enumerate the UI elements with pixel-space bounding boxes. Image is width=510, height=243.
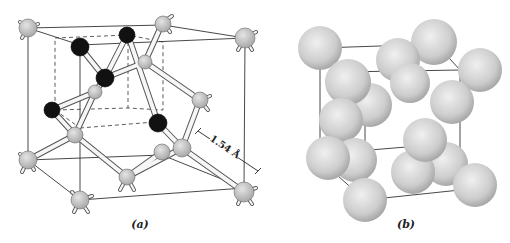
spheres (298, 19, 502, 222)
caption-a: (a) (131, 218, 149, 231)
dark-atoms (44, 27, 167, 132)
panel-b-spheres: (b) (298, 19, 502, 231)
caption-b: (b) (397, 218, 415, 231)
crystal-structure-figure: 1.54 Å (a) (0, 0, 510, 243)
panel-a-lattice: 1.54 Å (a) (19, 16, 261, 231)
figure: 1.54 Å (a) (0, 0, 510, 243)
